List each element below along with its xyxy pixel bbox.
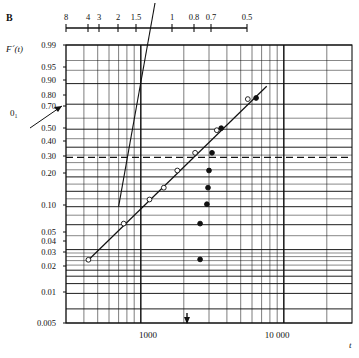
slope-ruler [66,24,247,32]
open-circle-data-points [86,97,250,262]
x-axis-position-arrow [184,313,190,324]
fitted-line [87,86,267,261]
probability-plot-figure: B F´(t) 0₁ t 84321.510.80.70.5 0.990.950… [0,0,359,358]
filled-circle-data-points [198,96,259,262]
slope-guide-line [119,3,155,207]
origin-arrow [30,106,62,128]
plot-canvas [0,0,359,358]
